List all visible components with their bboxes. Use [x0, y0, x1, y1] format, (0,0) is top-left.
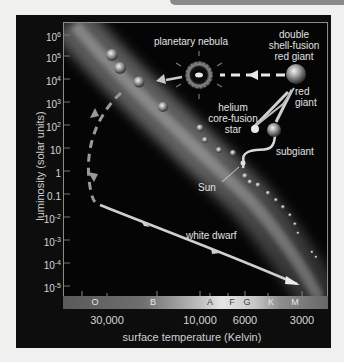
label-double-shell-fusion-red-giant: double shell-fusion red giant: [266, 29, 322, 62]
spectral-b: B: [150, 296, 156, 309]
spectral-k: K: [268, 296, 274, 309]
y-tick-1e6: 106: [21, 29, 61, 44]
x-tick-3000: 3000: [290, 314, 314, 326]
label-planetary-nebula: planetary nebula: [154, 36, 228, 47]
y-axis-label: luminosity (solar units): [34, 86, 46, 246]
double-shell-fusion-red-giant: [286, 64, 306, 84]
x-axis-label: surface temperature (Kelvin): [0, 331, 344, 343]
spectral-f: F: [229, 296, 235, 309]
label-subgiant: subgiant: [276, 146, 314, 157]
planetary-nebula: [176, 51, 222, 99]
collapse-track: [88, 93, 121, 202]
y-tick-1e-5: 10-5: [21, 280, 61, 295]
x-tick-30000: 30,000: [90, 314, 124, 326]
spectral-a: A: [207, 296, 213, 309]
label-sun: Sun: [198, 182, 216, 193]
y-tick-1e-4: 10-4: [21, 257, 61, 272]
spectral-class-bar: O B A F G K M: [63, 296, 328, 309]
spectral-m: M: [291, 296, 299, 309]
spectral-g: G: [243, 296, 250, 309]
label-helium-core-fusion-star: helium core-fusion star: [207, 102, 259, 135]
y-tick-1e5: 105: [21, 50, 61, 65]
spectral-o: O: [91, 296, 98, 309]
label-white-dwarf: white dwarf: [186, 230, 237, 241]
label-red-giant: red giant: [295, 86, 317, 108]
y-tick-marks: [64, 35, 70, 286]
x-tick-10000: 10,000: [183, 314, 217, 326]
sun-track: [243, 132, 276, 168]
x-tick-6000: 6000: [233, 314, 257, 326]
subgiant-star: [267, 123, 281, 137]
